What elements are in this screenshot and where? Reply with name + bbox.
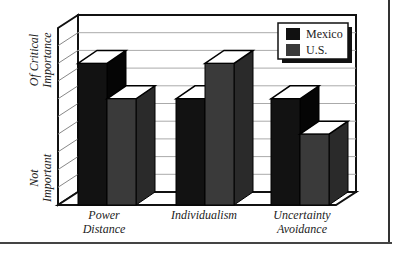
x-label-uncertainty-avoidance-1: Uncertainty — [273, 208, 331, 222]
legend-label-mexico: Mexico — [306, 27, 343, 41]
x-label-power-distance-2: Distance — [82, 222, 126, 236]
x-label-power-distance-1: Power — [87, 208, 120, 222]
legend-swatch-mexico — [286, 28, 300, 40]
bar-us-0 — [107, 86, 155, 205]
legend: Mexico U.S. — [278, 23, 352, 63]
x-axis-labels: Power Distance Individualism Uncertainty… — [82, 208, 332, 236]
svg-text:Important: Important — [40, 153, 54, 203]
y-axis-label-bottom: Not Important — [27, 153, 54, 203]
svg-text:Importance: Importance — [40, 32, 54, 89]
svg-text:Of Critical: Of Critical — [27, 33, 41, 86]
svg-text:Not: Not — [27, 169, 41, 188]
y-axis-label-top: Of Critical Importance — [27, 32, 54, 89]
bar-us-1 — [205, 50, 253, 205]
bar-chart: Mexico U.S. Of Critical Importance Not I… — [0, 0, 393, 255]
x-label-uncertainty-avoidance-2: Avoidance — [276, 222, 328, 236]
legend-label-us: U.S. — [306, 43, 327, 57]
legend-swatch-us — [286, 44, 300, 56]
bar-us-2 — [300, 121, 348, 205]
x-label-individualism: Individualism — [170, 208, 237, 222]
